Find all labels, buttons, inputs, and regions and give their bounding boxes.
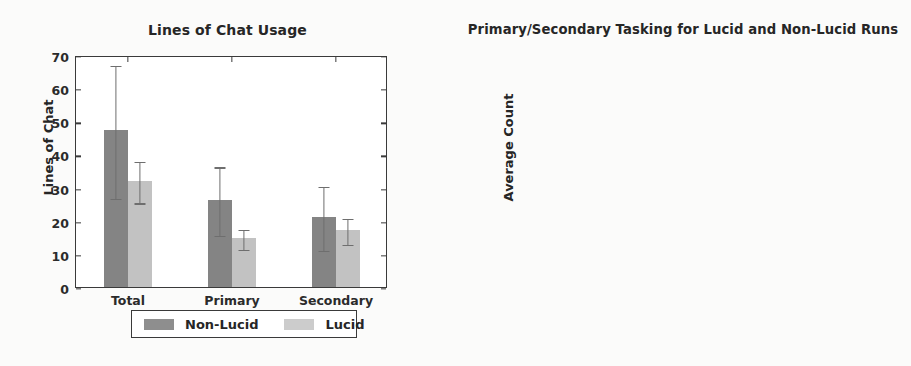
error-bar-cap [215,236,226,237]
error-bar [243,230,244,251]
x-tick-mark [231,57,232,62]
error-bar-cap [343,219,354,220]
y-tick-mark [76,89,81,90]
x-tick-label: Secondary [299,293,373,308]
plot-area: 010203040506070TotalPrimarySecondary [75,56,387,288]
legend-swatch-icon [144,319,174,330]
y-tick-label: 60 [52,83,76,98]
y-tick-label: 30 [52,182,76,197]
y-tick-mark [76,56,81,57]
y-tick-mark [381,89,386,90]
error-bar [219,167,220,235]
error-bar-cap [319,251,330,252]
figure-sheet: Lines of Chat Usage Lines of Chat 010203… [0,0,911,366]
error-bar-cap [111,66,122,67]
legend-label: Lucid [325,317,364,332]
y-tick-label: 20 [52,215,76,230]
y-tick-mark [381,56,386,57]
y-tick-mark [76,189,81,190]
y-tick-mark [381,288,386,289]
y-tick-label: 0 [60,282,76,297]
chart-lines-of-chat-usage: Lines of Chat Usage Lines of Chat 010203… [0,0,455,366]
y-tick-label: 10 [52,248,76,263]
x-tick-label: Total [111,293,145,308]
y-tick-label: 70 [52,50,76,65]
error-bar-cap [239,230,250,231]
error-bar [139,162,140,204]
error-bar [347,219,348,245]
y-tick-mark [381,222,386,223]
x-tick-mark [127,57,128,62]
chart-primary-secondary-tasking: Primary/Secondary Tasking for Lucid and … [455,0,911,366]
x-tick-mark [335,57,336,62]
error-bar [323,187,324,251]
error-bar-cap [215,167,226,168]
y-tick-mark [381,189,386,190]
error-bar-cap [343,245,354,246]
x-tick-label: Primary [204,293,259,308]
legend-entry-lucid: Lucid [284,317,364,332]
y-tick-mark [76,288,81,289]
error-bar-cap [135,162,146,163]
legend-label: Non-Lucid [185,317,258,332]
y-axis-label: Average Count [501,88,516,208]
chart-title: Primary/Secondary Tasking for Lucid and … [455,22,911,37]
y-tick-mark [76,123,81,124]
y-tick-mark [76,156,81,157]
chart-legend: Non-Lucid Lucid [131,310,357,338]
legend-swatch-icon [284,319,314,330]
error-bar-cap [239,250,250,251]
error-bar-cap [319,187,330,188]
y-tick-mark [76,222,81,223]
y-tick-mark [381,123,386,124]
error-bar-cap [135,203,146,204]
y-tick-mark [381,255,386,256]
y-tick-label: 50 [52,116,76,131]
error-bar-cap [111,199,122,200]
y-tick-label: 40 [52,149,76,164]
y-tick-mark [76,255,81,256]
chart-title: Lines of Chat Usage [0,22,455,38]
error-bar [115,66,116,199]
legend-entry-non-lucid: Non-Lucid [144,317,258,332]
y-tick-mark [381,156,386,157]
